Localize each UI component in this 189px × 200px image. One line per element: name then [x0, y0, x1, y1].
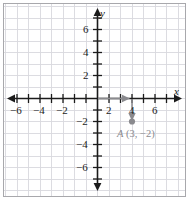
y-tick-label--2: −2	[76, 116, 88, 127]
y-tick-label-6: 6	[83, 24, 89, 35]
point-a-label: A (3, −2)	[117, 128, 155, 139]
y-tick-label-2: 2	[83, 70, 89, 81]
x-axis-label: x	[174, 86, 179, 97]
x-tick-label--2: −2	[56, 105, 68, 116]
x-tick-label-6: 6	[152, 105, 158, 116]
point-a-coordinates: (3, −2)	[126, 128, 155, 139]
x-tick-label-4: 4	[129, 105, 135, 116]
y-axis-bottom-arrowhead	[94, 183, 102, 191]
y-axis-label: y	[100, 8, 105, 19]
x-axis-left-arrowhead	[7, 95, 15, 103]
x-tick-label--6: −6	[10, 105, 22, 116]
y-tick-label--6: −6	[76, 162, 88, 173]
plotted-point-a	[129, 118, 135, 124]
x-tick-label-2: 2	[106, 105, 112, 116]
horizontal-guide-arrowhead	[122, 95, 130, 102]
plot-frame: −6 −4 −2 2 4 6 6 4 2 −2 −4 −6 x y A (3, …	[3, 3, 186, 197]
y-tick-label--4: −4	[76, 139, 88, 150]
coordinate-plane-figure: −6 −4 −2 2 4 6 6 4 2 −2 −4 −6 x y A (3, …	[0, 0, 189, 200]
axes-and-point	[4, 4, 185, 196]
y-tick-label-4: 4	[83, 47, 89, 58]
x-tick-label--4: −4	[33, 105, 45, 116]
